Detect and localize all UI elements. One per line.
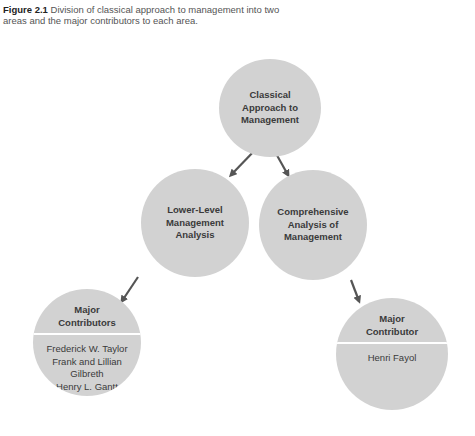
node-comprehensive-analysis: Comprehensive Analysis of Management xyxy=(259,170,367,280)
node-classical-approach: Classical Approach to Management xyxy=(219,59,321,157)
contributor-list: Henri Fayol xyxy=(336,352,448,365)
contributor-header: Major Contributor xyxy=(336,298,448,342)
node-label: Comprehensive Analysis of Management xyxy=(277,206,348,244)
divider xyxy=(336,342,448,344)
contributors-list: Frederick W. Taylor Frank and Lillian Gi… xyxy=(33,343,141,393)
node-major-contributor: Major Contributor Henri Fayol xyxy=(336,298,448,410)
node-label: Lower-Level Management Analysis xyxy=(166,204,224,242)
node-major-contributors: Major Contributors Frederick W. Taylor F… xyxy=(33,289,141,396)
node-label: Classical Approach to Management xyxy=(241,89,299,127)
node-lower-level-analysis: Lower-Level Management Analysis xyxy=(141,169,249,277)
contributors-header: Major Contributors xyxy=(33,289,141,333)
divider xyxy=(33,333,141,335)
